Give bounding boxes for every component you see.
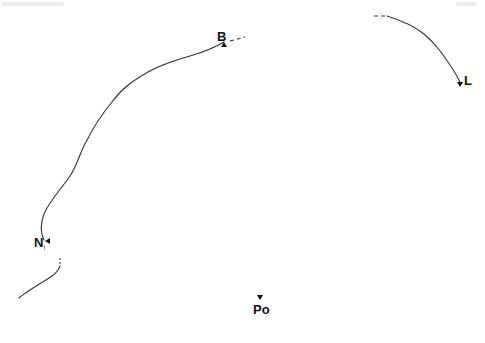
triangle-up-icon bbox=[221, 42, 227, 47]
triangle-down-icon bbox=[257, 295, 263, 300]
point-label-n: N bbox=[34, 236, 43, 249]
point-label-po: Po bbox=[253, 303, 270, 316]
lower-left-arc-path bbox=[19, 266, 60, 298]
trajectory-diagram bbox=[0, 0, 485, 343]
l-arc-path bbox=[387, 16, 460, 82]
figure-page: B L N Po bbox=[0, 0, 485, 343]
triangle-down-icon bbox=[457, 82, 463, 87]
n-tick-path bbox=[44, 245, 45, 250]
triangle-left-icon bbox=[45, 238, 50, 244]
main-arc-path bbox=[41, 42, 224, 240]
point-label-l: L bbox=[464, 74, 472, 87]
b-continuation-path bbox=[230, 37, 245, 41]
